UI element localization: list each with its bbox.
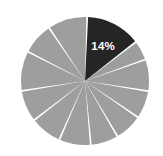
pie-chart-figure: 14% bbox=[0, 0, 163, 156]
pie-chart-svg: 14% bbox=[0, 0, 163, 156]
pie-labels-group: 14% bbox=[91, 40, 115, 52]
pie-slices-group bbox=[21, 17, 149, 145]
pie-slice-label: 14% bbox=[91, 40, 115, 52]
